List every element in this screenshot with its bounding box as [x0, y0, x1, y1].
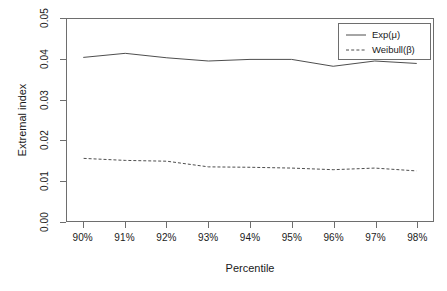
x-tick-label: 92%	[156, 232, 176, 243]
x-tick-label: 95%	[282, 232, 302, 243]
x-tick-label: 93%	[198, 232, 218, 243]
x-tick	[417, 222, 418, 228]
y-tick	[60, 100, 66, 101]
legend-swatch-dashed-icon	[345, 45, 367, 55]
y-tick	[60, 222, 66, 223]
legend-label-exp: Exp(μ)	[372, 30, 400, 40]
legend-entry-exp: Exp(μ)	[339, 27, 430, 42]
y-tick	[60, 181, 66, 182]
y-tick-label: 0.01	[39, 171, 50, 191]
legend: Exp(μ) Weibull(β)	[338, 23, 431, 60]
y-tick-label: 0.02	[39, 130, 50, 150]
series-line-weibull	[84, 158, 417, 171]
x-tick	[376, 222, 377, 228]
y-tick-label: 0.03	[39, 90, 50, 110]
x-tick	[166, 222, 167, 228]
x-tick	[250, 222, 251, 228]
x-tick-label: 98%	[407, 232, 427, 243]
x-tick	[334, 222, 335, 228]
x-tick-label: 97%	[365, 232, 385, 243]
legend-label-weibull: Weibull(β)	[372, 45, 415, 55]
y-axis-title: Extremal index	[16, 84, 28, 157]
legend-swatch-solid-icon	[345, 30, 367, 40]
x-tick-label: 96%	[323, 232, 343, 243]
y-tick	[60, 140, 66, 141]
x-tick	[208, 222, 209, 228]
y-tick	[60, 59, 66, 60]
x-tick-label: 94%	[240, 232, 260, 243]
y-tick	[60, 18, 66, 19]
chart-figure: 0.000.010.020.030.040.05 90%91%92%93%94%…	[0, 0, 447, 291]
legend-entry-weibull: Weibull(β)	[339, 42, 430, 57]
x-axis-title: Percentile	[226, 262, 275, 274]
y-tick-label: 0.04	[39, 49, 50, 69]
x-tick	[125, 222, 126, 228]
y-tick-label: 0.05	[39, 8, 50, 28]
x-tick-label: 90%	[73, 232, 93, 243]
y-tick-label: 0.00	[39, 212, 50, 232]
x-tick-label: 91%	[114, 232, 134, 243]
x-tick	[292, 222, 293, 228]
x-tick	[83, 222, 84, 228]
